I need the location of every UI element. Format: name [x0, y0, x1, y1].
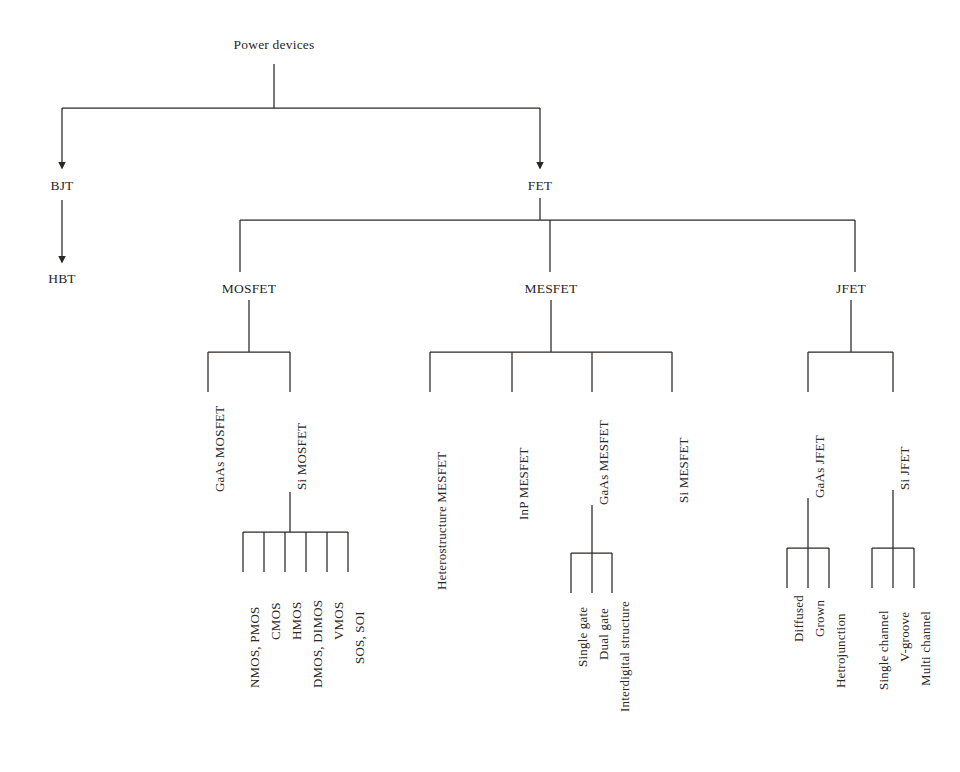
node-hmos: HMOS [290, 602, 303, 640]
node-dmos-dimos: DMOS, DIMOS [311, 600, 324, 688]
node-jfet: JFET [836, 282, 866, 296]
node-si-jfet: Si JFET [898, 446, 911, 490]
node-inp-mesfet: InP MESFET [517, 447, 530, 520]
node-vmos: VMOS [332, 602, 345, 640]
node-grown: Grown [813, 600, 826, 637]
node-hetrojunction: Hetrojunction [834, 613, 847, 688]
node-dual-gate: Dual gate [597, 608, 610, 660]
node-nmos-pmos: NMOS, PMOS [248, 607, 261, 688]
node-mesfet: MESFET [525, 282, 578, 296]
node-v-groove: V-groove [898, 612, 911, 662]
node-interdigital-structure: Interdigital structure [618, 601, 631, 712]
node-power-devices: Power devices [234, 38, 315, 52]
node-mosfet: MOSFET [222, 282, 276, 296]
node-gaas-mosfet: GaAs MOSFET [213, 406, 226, 492]
node-gaas-mesfet: GaAs MESFET [597, 420, 610, 505]
node-multi-channel: Multi channel [919, 611, 932, 686]
node-fet: FET [528, 179, 553, 193]
node-bjt: BJT [50, 179, 73, 193]
node-gaas-jfet: GaAs JFET [813, 435, 826, 498]
node-hbt: HBT [48, 272, 76, 286]
node-sos-soi: SOS, SOI [353, 611, 366, 664]
diagram-connectors [0, 0, 960, 772]
node-si-mesfet: Si MESFET [677, 437, 690, 503]
node-single-channel: Single channel [877, 610, 890, 690]
node-cmos: CMOS [269, 602, 282, 640]
node-heterostructure-mesfet: Heterostructure MESFET [435, 452, 448, 590]
diagram-canvas: Power devices BJT FET HBT MOSFET MESFET … [0, 0, 960, 772]
node-diffused: Diffused [792, 595, 805, 642]
node-single-gate: Single gate [576, 607, 589, 667]
node-si-mosfet: Si MOSFET [295, 423, 308, 490]
